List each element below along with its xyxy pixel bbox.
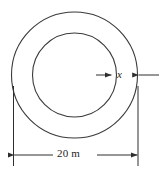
diameter-label: 20 m: [57, 148, 80, 159]
annulus-width-label: x: [117, 69, 122, 80]
annulus-figure: x 20 m: [0, 0, 159, 173]
